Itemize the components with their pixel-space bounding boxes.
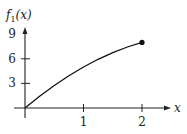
endpoint-marker xyxy=(139,40,144,45)
y-tick-label: 3 xyxy=(8,76,16,90)
y-axis-label: f1(x) xyxy=(5,8,32,24)
x-axis-label: x xyxy=(174,101,181,115)
series-line-f1 xyxy=(25,42,142,108)
x-tick-label: 1 xyxy=(80,115,88,129)
y-tick-label: 6 xyxy=(8,52,16,66)
y-ticks: 369 xyxy=(8,27,30,90)
y-tick-label: 9 xyxy=(8,27,16,41)
x-tick-label: 2 xyxy=(138,115,146,129)
y-axis-arrow-icon xyxy=(23,27,28,34)
x-axis-arrow-icon xyxy=(164,106,171,111)
chart-canvas: 12 369 x f1(x) xyxy=(0,0,187,134)
